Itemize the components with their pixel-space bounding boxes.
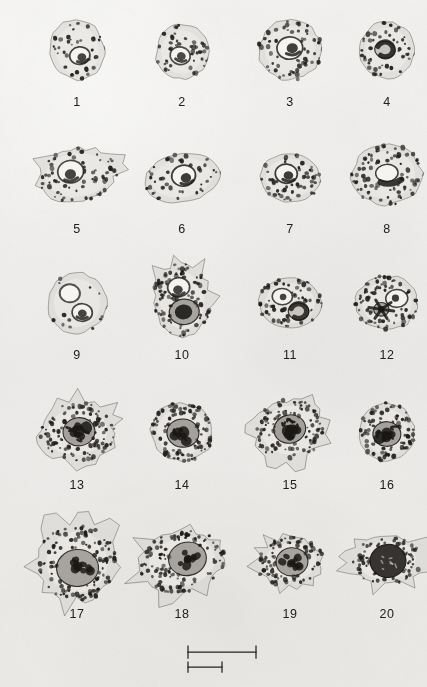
figure-number-label: 3 — [286, 95, 294, 109]
cell-figure-9 — [22, 247, 132, 359]
cell-figure-16 — [334, 377, 427, 487]
cell-figure-1 — [24, 0, 130, 106]
cell-figure-14 — [125, 377, 239, 487]
cell-figure-12 — [330, 250, 427, 356]
cell-figure-15 — [229, 374, 351, 486]
cell-figure-18 — [114, 506, 250, 618]
figure-number-label: 9 — [73, 348, 81, 362]
figure-number-label: 5 — [73, 222, 81, 236]
figure-number-label: 7 — [286, 222, 294, 236]
cell-figure-20 — [325, 510, 427, 610]
figure-number-label: 6 — [178, 222, 186, 236]
cell-figure-6 — [118, 128, 246, 228]
figure-number-label: 1 — [73, 95, 81, 109]
scale-bar-rule — [0, 636, 427, 680]
figure-number-label: 14 — [174, 478, 189, 492]
cell-figure-10 — [128, 238, 236, 362]
figure-number-label: 4 — [383, 95, 391, 109]
figure-number-label: 11 — [283, 348, 297, 362]
scale-bar: 0 10 μ m 10 m/m — [0, 636, 427, 680]
figure-number-label: 20 — [379, 607, 394, 621]
figure-number-label: 10 — [174, 348, 189, 362]
figure-number-label: 17 — [69, 607, 84, 621]
figure-number-label: 13 — [69, 478, 84, 492]
figure-number-label: 2 — [178, 95, 186, 109]
cell-figure-3 — [233, 0, 347, 106]
cell-figure-4 — [334, 0, 427, 104]
figure-number-label: 18 — [174, 607, 189, 621]
cell-figure-2 — [130, 0, 234, 105]
figure-number-label: 19 — [282, 607, 297, 621]
figure-number-label: 12 — [379, 348, 394, 362]
figure-number-label: 8 — [383, 222, 391, 236]
cell-figure-13 — [13, 377, 141, 487]
figure-number-label: 15 — [282, 478, 297, 492]
figure-number-label: 16 — [379, 478, 394, 492]
cell-figure-8 — [326, 119, 427, 231]
